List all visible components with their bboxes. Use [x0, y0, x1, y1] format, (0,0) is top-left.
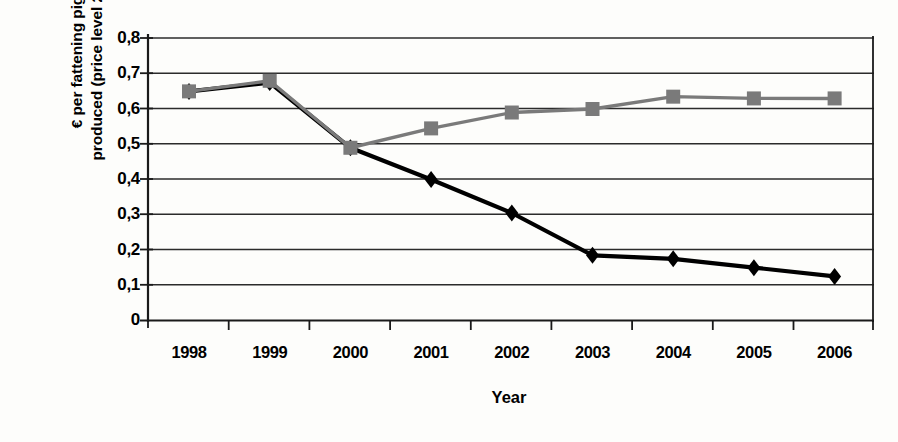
gridlines: [148, 38, 874, 285]
x-axis-title-label: Year: [492, 388, 527, 406]
data-point-diamond: [828, 268, 841, 285]
data-point-diamond: [747, 259, 760, 276]
data-point-square: [263, 74, 277, 88]
plot-area: [0, 0, 898, 442]
y-axis-ticks: [140, 38, 153, 285]
x-tick-label: 2000: [333, 343, 368, 362]
x-tick-label: 2003: [575, 343, 610, 362]
x-tick-label: 2006: [817, 343, 852, 362]
data-point-diamond: [505, 204, 518, 221]
data-point-square: [505, 106, 519, 120]
data-point-square: [182, 84, 196, 98]
data-point-square: [747, 91, 761, 105]
data-point-diamond: [425, 171, 438, 188]
x-axis-title: Year: [0, 388, 898, 407]
axis-lines: [140, 34, 874, 322]
x-tick-label: 2002: [494, 343, 529, 362]
data-point-square: [586, 102, 600, 116]
data-point-diamond: [667, 250, 680, 267]
series-square: [182, 74, 842, 155]
data-point-square: [424, 121, 438, 135]
data-point-square: [666, 90, 680, 104]
line-chart: € per fattening pig produced (price leve…: [0, 0, 898, 442]
data-point-square: [828, 91, 842, 105]
data-point-square: [343, 141, 357, 155]
x-tick-label: 2004: [656, 343, 691, 362]
x-tick-label: 2005: [736, 343, 771, 362]
x-tick-label: 1999: [252, 343, 287, 362]
x-tick-label: 2001: [414, 343, 449, 362]
x-tick-label: 1998: [171, 343, 206, 362]
